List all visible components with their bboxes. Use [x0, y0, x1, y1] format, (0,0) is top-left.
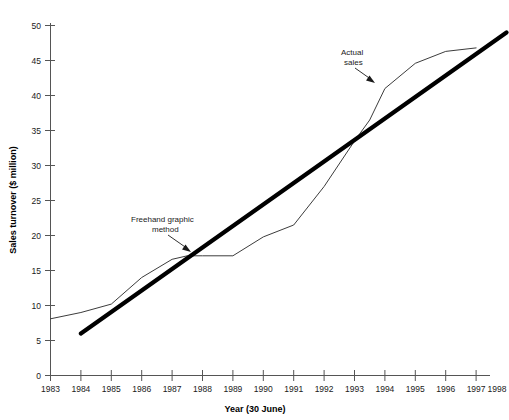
y-tick-label-35: 35 — [32, 126, 42, 136]
x-tick-label-1983: 1983 — [41, 384, 60, 394]
x-axis-title: Year (30 June) — [224, 404, 285, 414]
x-tick-label-1995: 1995 — [406, 384, 425, 394]
y-axis-tick-labels: 0 5 10 15 20 25 30 35 40 45 50 — [32, 21, 42, 381]
x-tick-label-1991: 1991 — [284, 384, 303, 394]
y-tick-label-45: 45 — [32, 56, 42, 66]
y-tick-label-0: 0 — [36, 371, 41, 381]
x-tick-label-1998: 1998 — [488, 384, 507, 394]
freehand-annotation-line1: Freehand graphic — [131, 215, 194, 224]
actual-sales-annotation: Actual sales — [341, 48, 375, 83]
y-tick-label-20: 20 — [32, 231, 42, 241]
x-tick-label-1989: 1989 — [223, 384, 242, 394]
x-tick-label-1994: 1994 — [375, 384, 394, 394]
y-tick-label-5: 5 — [36, 336, 41, 346]
actual-sales-annotation-line1: Actual — [341, 48, 363, 57]
x-tick-label-1987: 1987 — [163, 384, 182, 394]
y-tick-label-50: 50 — [32, 21, 42, 31]
freehand-trend-line — [81, 33, 507, 334]
x-tick-label-1984: 1984 — [71, 384, 90, 394]
x-tick-label-1993: 1993 — [345, 384, 364, 394]
actual-sales-line — [51, 48, 477, 319]
y-tick-label-25: 25 — [32, 196, 42, 206]
y-tick-label-30: 30 — [32, 161, 42, 171]
x-tick-label-1992: 1992 — [315, 384, 334, 394]
chart-container: 0 5 10 15 20 25 30 35 40 45 50 — [0, 0, 509, 420]
x-tick-label-1997: 1997 — [467, 384, 486, 394]
freehand-annotation-line2: method — [152, 225, 179, 234]
actual-sales-annotation-line2: sales — [344, 58, 363, 67]
x-tick-label-1988: 1988 — [193, 384, 212, 394]
y-tick-label-10: 10 — [32, 301, 42, 311]
y-axis-title: Sales turnover ($ million) — [8, 146, 18, 254]
x-axis-tick-labels: 1983 1984 1985 1986 1987 1988 1989 1990 … — [41, 384, 507, 394]
sales-turnover-line-chart: 0 5 10 15 20 25 30 35 40 45 50 — [0, 0, 509, 420]
freehand-annotation: Freehand graphic method — [131, 215, 194, 252]
x-tick-label-1986: 1986 — [132, 384, 151, 394]
x-tick-label-1985: 1985 — [102, 384, 121, 394]
y-tick-label-15: 15 — [32, 266, 42, 276]
x-tick-label-1990: 1990 — [254, 384, 273, 394]
x-tick-label-1996: 1996 — [436, 384, 455, 394]
y-tick-label-40: 40 — [32, 91, 42, 101]
